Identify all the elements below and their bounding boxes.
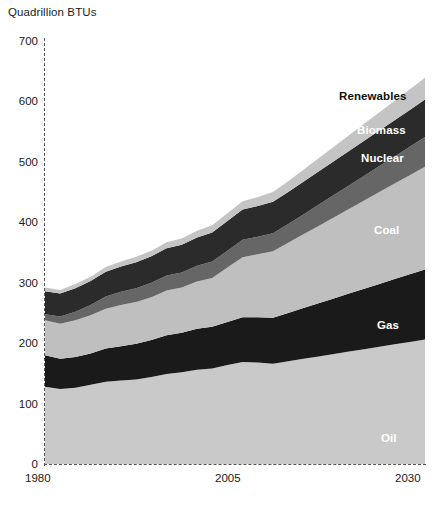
y-tick-label-200: 200 <box>8 337 38 349</box>
x-tick-label-1980: 1980 <box>25 472 51 484</box>
y-tick-label-500: 500 <box>8 156 38 168</box>
x-axis-line <box>44 464 426 465</box>
y-tick-label-0: 0 <box>8 458 38 470</box>
y-axis-tick-labels: 7006005004003002001000 <box>0 0 38 506</box>
y-tick-label-400: 400 <box>8 216 38 228</box>
stacked-area-chart: Quadrillion BTUs 7006005004003002001000 … <box>0 0 440 506</box>
y-tick-label-600: 600 <box>8 95 38 107</box>
y-tick-label-700: 700 <box>8 35 38 47</box>
y-tick-label-100: 100 <box>8 398 38 410</box>
plot-area <box>45 41 425 464</box>
y-tick-label-300: 300 <box>8 277 38 289</box>
x-tick-label-2005: 2005 <box>215 472 241 484</box>
area-series-svg <box>45 41 425 464</box>
x-tick-label-2030: 2030 <box>395 472 421 484</box>
